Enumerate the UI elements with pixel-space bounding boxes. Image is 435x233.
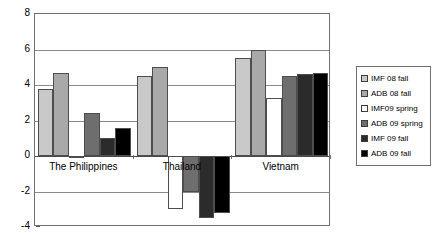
y-axis-tick-label: -4 — [10, 221, 30, 231]
legend-swatch-icon — [361, 135, 368, 142]
legend-item: IMF 09 fall — [361, 131, 427, 146]
y-axis-tick-label: -2 — [10, 186, 30, 196]
bar — [38, 89, 54, 156]
y-axis: 86420-2-4 — [6, 0, 30, 233]
x-axis-tick — [330, 155, 331, 159]
y-axis-tick-label: 2 — [10, 115, 30, 125]
bar — [53, 73, 69, 156]
legend-item-label: IMF 08 fall — [371, 74, 408, 83]
bar — [313, 73, 329, 156]
legend-swatch-icon — [361, 105, 368, 112]
legend-item: IMF 08 fall — [361, 71, 427, 86]
x-axis-tick — [133, 155, 134, 159]
gridline — [35, 50, 329, 51]
legend-item-label: IMF 09 fall — [371, 134, 408, 143]
bar — [266, 98, 282, 156]
bar — [214, 156, 230, 213]
y-axis-tick-label: 0 — [10, 150, 30, 160]
bar — [100, 138, 116, 156]
legend-item-label: ADB 09 spring — [371, 119, 423, 128]
bar — [137, 76, 153, 156]
legend-item-label: ADB 08 fall — [371, 89, 411, 98]
legend-item: IMF09 spring — [361, 101, 427, 116]
y-axis-tick-label: 6 — [10, 44, 30, 54]
y-axis-tick-label: 4 — [10, 79, 30, 89]
legend-swatch-icon — [361, 90, 368, 97]
bar — [282, 76, 298, 156]
bar — [235, 58, 251, 156]
legend-item: ADB 09 spring — [361, 116, 427, 131]
y-axis-tick-label: 8 — [10, 8, 30, 18]
bar-chart: 86420-2-4 The PhilippinesThailandVietnam… — [0, 0, 435, 233]
legend-swatch-icon — [361, 120, 368, 127]
bar — [115, 128, 131, 156]
bar — [84, 113, 100, 156]
x-axis-category-label: Thailand — [163, 161, 201, 172]
x-axis-tick — [231, 155, 232, 159]
bar — [251, 50, 267, 157]
legend-swatch-icon — [361, 75, 368, 82]
legend-swatch-icon — [361, 150, 368, 157]
legend-item-label: ADB 09 fall — [371, 149, 411, 158]
legend-item-label: IMF09 spring — [371, 104, 418, 113]
bar — [297, 74, 313, 156]
legend-item: ADB 08 fall — [361, 86, 427, 101]
x-axis-category-label: Vietnam — [262, 161, 299, 172]
legend-item: ADB 09 fall — [361, 146, 427, 161]
plot-area — [34, 13, 330, 226]
y-axis-tick-mark — [36, 226, 40, 227]
bar — [69, 156, 85, 158]
chart-legend: IMF 08 fallADB 08 fallIMF09 springADB 09… — [356, 66, 431, 166]
x-axis-category-label: The Philippines — [49, 161, 117, 172]
bar — [152, 67, 168, 156]
